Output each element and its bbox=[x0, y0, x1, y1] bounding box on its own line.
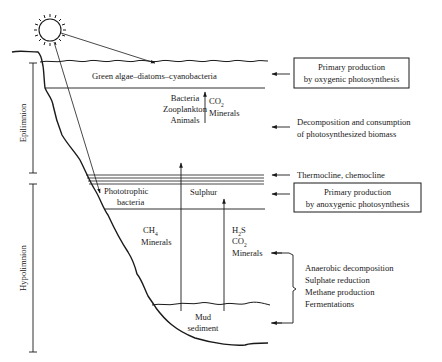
consumers-label: Bacteria Zooplankton Animals bbox=[163, 93, 208, 125]
svg-text:Bacteria: Bacteria bbox=[171, 93, 200, 103]
svg-text:CH4: CH4 bbox=[143, 225, 158, 237]
oxygenic-line-2: by oxygenic photosynthesis bbox=[304, 74, 400, 84]
epilimnion-bar bbox=[29, 63, 37, 173]
anaerobic-processes-label: Anaerobic decomposition Sulphate reducti… bbox=[305, 263, 394, 309]
svg-text:CO2: CO2 bbox=[232, 236, 247, 248]
anoxygenic-line-1: Primary production bbox=[324, 187, 392, 197]
sediment-surface bbox=[152, 302, 270, 305]
light-ray-deep bbox=[54, 42, 100, 193]
lake-stratification-diagram: Epilimnion Hypolimnion Green algae–diato… bbox=[0, 0, 442, 362]
sulphur-label: Sulphur bbox=[190, 187, 217, 197]
mud-sediment-label: Mud sediment bbox=[187, 312, 219, 333]
upper-products-label: CO2 Minerals bbox=[209, 96, 240, 118]
svg-text:CO2: CO2 bbox=[209, 96, 224, 108]
svg-text:Minerals: Minerals bbox=[209, 108, 240, 118]
anoxygenic-line-2: by anoxygenic photosynthesis bbox=[306, 199, 410, 209]
svg-text:Anaerobic decomposition: Anaerobic decomposition bbox=[305, 263, 394, 273]
decomposition-line-2: of photosynthesized biomass bbox=[297, 129, 397, 139]
svg-text:sediment: sediment bbox=[187, 323, 219, 333]
water-surface bbox=[40, 60, 268, 62]
lower-left-products-label: CH4 Minerals bbox=[141, 225, 172, 247]
lower-right-products-label: H2S CO2 Minerals bbox=[232, 225, 263, 258]
surface-organisms-label: Green algae–diatoms–cyanobacteria bbox=[92, 71, 217, 81]
svg-text:bacteria: bacteria bbox=[117, 197, 144, 207]
svg-text:Animals: Animals bbox=[170, 115, 200, 125]
svg-text:Fermentations: Fermentations bbox=[305, 299, 355, 309]
thermocline-label: Thermocline, chemocline bbox=[297, 170, 385, 180]
sun-icon bbox=[34, 14, 66, 46]
decomposition-line-1: Decomposition and consumption bbox=[297, 117, 411, 127]
svg-text:H2S: H2S bbox=[232, 225, 246, 237]
svg-text:Phototrophic: Phototrophic bbox=[104, 186, 149, 196]
hypolimnion-label: Hypolimnion bbox=[18, 244, 28, 291]
svg-text:Minerals: Minerals bbox=[232, 248, 263, 258]
anaerobic-bracket bbox=[271, 253, 296, 323]
oxygenic-line-1: Primary production bbox=[318, 62, 386, 72]
thermocline-lines bbox=[86, 175, 264, 184]
svg-text:Methane production: Methane production bbox=[305, 287, 375, 297]
hypolimnion-bar bbox=[29, 184, 37, 352]
svg-text:Mud: Mud bbox=[195, 312, 212, 322]
svg-text:Sulphate reduction: Sulphate reduction bbox=[305, 275, 370, 285]
light-ray-surface bbox=[61, 33, 155, 63]
svg-text:Minerals: Minerals bbox=[141, 237, 172, 247]
svg-text:Zooplankton: Zooplankton bbox=[163, 104, 208, 114]
phototrophic-bacteria-label: Phototrophic bacteria bbox=[104, 186, 149, 207]
epilimnion-label: Epilimnion bbox=[18, 103, 28, 142]
